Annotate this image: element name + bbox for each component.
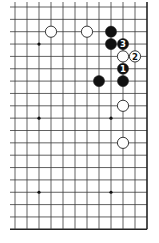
- star-point: [109, 117, 112, 120]
- black-stone-move-1: 1: [117, 63, 128, 74]
- move-number-label: 3: [120, 39, 126, 49]
- white-stone: [117, 100, 128, 111]
- stone-icon: [117, 100, 128, 111]
- white-stone-move-2: 2: [129, 51, 140, 62]
- white-stone: [117, 51, 128, 62]
- white-stone: [45, 26, 56, 37]
- go-board-diagram: 321: [0, 0, 159, 243]
- star-point: [37, 42, 40, 45]
- stone-icon: [81, 26, 92, 37]
- black-stone: [105, 26, 116, 37]
- black-stone: [93, 76, 104, 87]
- black-stone-move-3: 3: [117, 38, 128, 49]
- white-stone: [117, 137, 128, 148]
- move-number-label: 1: [120, 64, 126, 74]
- black-stone: [105, 38, 116, 49]
- star-point: [37, 117, 40, 120]
- stone-icon: [93, 76, 104, 87]
- move-number-label: 2: [132, 52, 138, 62]
- stone-icon: [45, 26, 56, 37]
- stone-icon: [117, 137, 128, 148]
- stone-icon: [105, 38, 116, 49]
- stone-icon: [117, 76, 128, 87]
- star-point: [109, 191, 112, 194]
- board-grid: [10, 2, 147, 229]
- star-point: [37, 191, 40, 194]
- white-stone: [81, 26, 92, 37]
- stone-icon: [105, 26, 116, 37]
- black-stone: [117, 76, 128, 87]
- stones: 321: [45, 26, 140, 148]
- stone-icon: [117, 51, 128, 62]
